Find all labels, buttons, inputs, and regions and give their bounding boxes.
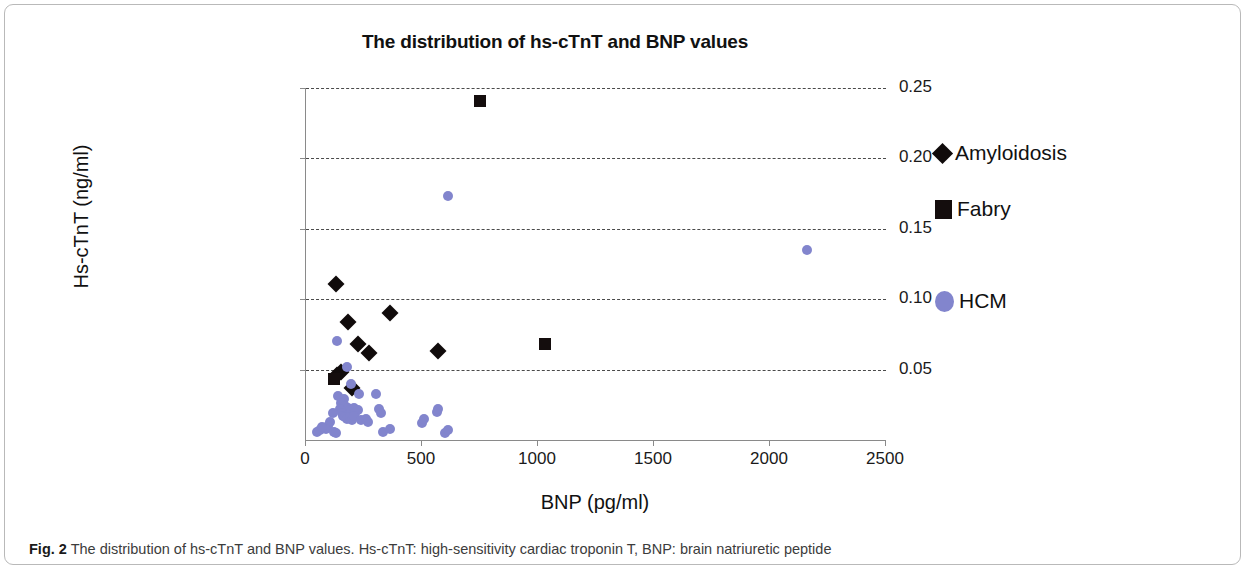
chart-title: The distribution of hs-cTnT and BNP valu… [5,31,1105,53]
data-point-hcm [385,424,395,434]
y-tick-mark [300,370,306,371]
data-point-fabry [539,338,551,350]
y-tick-mark [300,229,306,230]
x-axis-tick-label: 1500 [608,449,698,469]
data-point-fabry [328,373,340,385]
data-point-amyloidosis [339,313,356,330]
figure-number: Fig. 2 [29,541,67,557]
legend-marker-circle-icon [935,291,954,312]
y-gridline [306,158,886,159]
figure-caption-text: The distribution of hs-cTnT and BNP valu… [71,541,832,557]
data-point-hcm [419,414,429,424]
y-gridline [306,229,886,230]
x-axis-tick-label: 500 [376,449,466,469]
x-axis-tick-label: 2500 [840,449,930,469]
legend-label: HCM [959,289,1007,313]
data-point-hcm [443,191,453,201]
data-point-hcm [371,389,381,399]
figure-frame: The distribution of hs-cTnT and BNP valu… [4,4,1241,565]
y-tick-mark [300,299,306,300]
legend-item-hcm: HCM [935,289,1007,313]
x-axis-tick-label: 0 [260,449,350,469]
y-tick-mark [300,88,306,89]
data-point-amyloidosis [430,343,447,360]
y-gridline [306,88,886,89]
data-point-hcm [363,417,373,427]
y-gridline [306,370,886,371]
x-axis-title: BNP (pg/ml) [305,491,885,514]
data-point-hcm [332,336,342,346]
legend-item-fabry: Fabry [935,197,1011,221]
legend-marker-square-icon [935,200,952,219]
y-tick-mark [300,158,306,159]
data-point-hcm [354,389,364,399]
data-point-amyloidosis [381,305,398,322]
plot-area [305,88,886,441]
legend-label: Amyloidosis [955,141,1067,165]
data-point-fabry [474,95,486,107]
data-point-hcm [376,408,386,418]
data-point-amyloidosis [328,275,345,292]
legend-marker-diamond-icon [932,142,953,163]
data-point-hcm [342,362,352,372]
y-gridline [306,299,886,300]
data-point-hcm [802,245,812,255]
y-axis-title: Hs-cTnT (ng/ml) [70,77,93,357]
x-axis-tick-label: 1000 [492,449,582,469]
legend-item-amyloidosis: Amyloidosis [935,141,1067,165]
legend-label: Fabry [957,197,1011,221]
data-point-hcm [443,425,453,435]
figure-caption: Fig. 2 The distribution of hs-cTnT and B… [29,541,1209,557]
data-point-hcm [331,428,341,438]
x-axis-tick-label: 2000 [724,449,814,469]
